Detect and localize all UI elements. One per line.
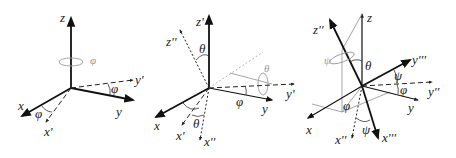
rotation-arc xyxy=(258,73,268,95)
x-angle-arc xyxy=(41,105,52,112)
xprime-angle-arc xyxy=(183,103,199,109)
z-prime-axis-label: z' xyxy=(195,14,204,29)
panel-rotation-psi: z z'' x''' ψ θ x y y''' y'' ψ φ xyxy=(305,10,440,147)
y-prime-axis xyxy=(71,80,133,88)
theta-label: θ xyxy=(365,58,372,73)
plane-line xyxy=(209,52,263,88)
y-axis-label: y xyxy=(260,101,268,116)
z-dprime-axis-label: z'' xyxy=(312,22,324,37)
y-dprime-axis-label: y'' xyxy=(426,84,440,99)
euler-angles-diagram: z φ x y x' y' φ φ z' z'' θ θ xyxy=(0,0,456,158)
x-axis xyxy=(156,88,209,117)
z-axis-label: z xyxy=(366,10,372,25)
x-prime-axis-label: x' xyxy=(175,128,185,143)
z-angle-label: θ xyxy=(199,41,206,56)
x-axis-label: x xyxy=(17,98,24,113)
x-dprime-axis-label: x'' xyxy=(334,132,347,147)
x-angle-label: φ xyxy=(35,106,42,121)
y-axis-label: y xyxy=(406,100,414,115)
y-angle-arc xyxy=(108,84,110,95)
rotation-angle-label: φ xyxy=(90,54,96,66)
x-axis-label: x xyxy=(153,118,160,133)
phi-xy-label: φ xyxy=(343,98,350,113)
y-prime-axis-label: y' xyxy=(284,86,295,101)
y-axis xyxy=(362,86,418,100)
projection-line xyxy=(342,14,362,50)
panel-rotation-phi: z φ x y x' y' φ φ xyxy=(17,10,144,139)
y-angle-label: φ xyxy=(111,81,118,96)
y-prime-axis-label: y' xyxy=(133,72,144,87)
phi-y-arc xyxy=(397,84,398,94)
y-angle-arc xyxy=(245,86,246,95)
x-prime-axis-label: x' xyxy=(43,124,53,139)
x-tprime-axis-label: x''' xyxy=(381,130,396,145)
x-dprime-axis-label: x'' xyxy=(203,134,216,149)
y-angle-label: φ xyxy=(236,94,243,109)
y-axis-label: y xyxy=(114,104,122,119)
y-prime-axis xyxy=(209,84,294,88)
x-dprime-axis xyxy=(352,86,362,138)
y-tprime-axis-label: y''' xyxy=(410,52,426,67)
z-dprime-axis xyxy=(180,30,209,88)
psi-x-label: ψ xyxy=(362,122,371,137)
x-dprime-axis xyxy=(200,88,209,140)
theta-arc xyxy=(350,60,362,62)
x-axis xyxy=(22,88,71,116)
phi-y-label: φ xyxy=(400,82,407,97)
psi-y-label: ψ xyxy=(394,68,403,83)
x-angle-label: θ xyxy=(193,116,200,131)
x-axis xyxy=(308,86,362,118)
projection-line xyxy=(312,104,342,112)
y-axis xyxy=(71,88,133,100)
x-axis-label: x xyxy=(305,122,312,137)
rotation-angle-label: θ xyxy=(264,62,270,74)
x-prime-axis xyxy=(46,88,71,122)
z-axis-label: z xyxy=(59,10,65,25)
z-dprime-axis-label: z'' xyxy=(165,34,177,49)
rotation-angle-label: ψ xyxy=(324,54,331,66)
panel-rotation-theta: z' z'' θ θ x y y' x' x'' θ φ xyxy=(153,14,295,149)
